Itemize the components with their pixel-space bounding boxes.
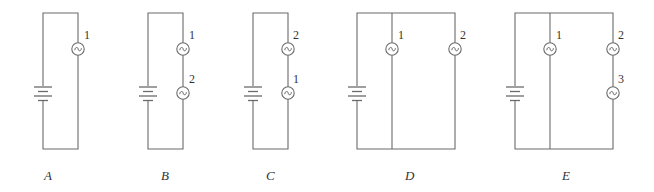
- circuit-label: A: [43, 168, 52, 183]
- circuit-label: B: [161, 168, 169, 183]
- wire-outer-loop: [357, 13, 455, 149]
- bulb-number: 2: [618, 28, 624, 42]
- battery-icon: [34, 87, 52, 101]
- bulb-number: 1: [556, 28, 562, 42]
- wire-loop: [148, 13, 183, 149]
- circuit-c: 2 1 C: [244, 13, 299, 183]
- bulb-icon: [544, 43, 556, 55]
- wire-loop: [43, 13, 78, 149]
- bulb-icon: [386, 43, 398, 55]
- bulb-number: 2: [189, 72, 195, 86]
- bulb-icon: [177, 87, 189, 99]
- wire-loop: [253, 13, 288, 149]
- circuit-diagram-figure: 1 A 1 2 B 2 1 C 1 2 D: [0, 0, 654, 192]
- wire-outer-loop: [515, 13, 613, 149]
- bulb-number: 2: [460, 28, 466, 42]
- battery-icon: [506, 87, 524, 101]
- bulb-icon: [177, 43, 189, 55]
- bulb-number: 1: [189, 28, 195, 42]
- bulb-number: 3: [618, 72, 624, 86]
- bulb-icon: [607, 43, 619, 55]
- bulb-number: 2: [293, 28, 299, 42]
- bulb-icon: [282, 43, 294, 55]
- circuit-e: 1 2 3 E: [506, 13, 624, 183]
- bulb-icon: [282, 87, 294, 99]
- bulb-icon: [449, 43, 461, 55]
- battery-icon: [348, 87, 366, 101]
- circuit-label: E: [561, 168, 570, 183]
- circuit-b: 1 2 B: [139, 13, 195, 183]
- circuit-label: C: [266, 168, 275, 183]
- bulb-icon: [607, 87, 619, 99]
- battery-icon: [244, 87, 262, 101]
- bulb-icon: [72, 43, 84, 55]
- circuit-d: 1 2 D: [348, 13, 466, 183]
- bulb-number: 1: [84, 28, 90, 42]
- bulb-number: 1: [398, 28, 404, 42]
- battery-icon: [139, 87, 157, 101]
- bulb-number: 1: [293, 72, 299, 86]
- circuit-label: D: [404, 168, 415, 183]
- circuit-a: 1 A: [34, 13, 90, 183]
